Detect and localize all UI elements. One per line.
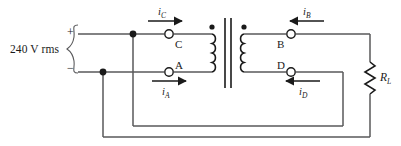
junction-node-top	[130, 31, 137, 38]
terminal-b-marker	[287, 30, 295, 38]
primary-polarity-dot	[209, 24, 214, 29]
terminal-a-label: A	[175, 60, 183, 71]
source-minus-sign: −	[67, 62, 74, 74]
wire-outer-return	[103, 72, 370, 137]
circuit-schematic	[0, 0, 401, 146]
load-resistor-symbol: R	[380, 71, 387, 83]
current-label-ic: iC	[158, 7, 166, 20]
current-label-ib: iB	[303, 7, 311, 20]
wire-d-branch	[133, 34, 343, 126]
transformer-primary-winding	[200, 24, 215, 72]
current-ic-subscript: C	[161, 11, 166, 20]
load-resistor-subscript: L	[387, 77, 391, 86]
wire-b-branch	[296, 34, 370, 62]
terminal-c-marker	[165, 30, 173, 38]
terminal-d-label: D	[277, 60, 285, 71]
terminal-d-marker	[287, 68, 295, 76]
circuit-diagram-page: 240 V rms + − C A B D iC iA iB iD RL	[0, 0, 401, 146]
source-voltage-label: 240 V rms	[10, 44, 59, 56]
source-leads	[78, 34, 133, 72]
transformer-core	[225, 18, 231, 88]
current-label-id: iD	[299, 87, 307, 100]
source-plus-sign: +	[67, 26, 74, 38]
terminal-c-label: C	[175, 39, 182, 50]
load-resistor-label: RL	[380, 72, 391, 86]
terminal-a-marker	[165, 68, 173, 76]
terminal-b-label: B	[277, 39, 284, 50]
load-resistor	[365, 62, 375, 137]
secondary-polarity-dot	[241, 24, 246, 29]
current-ib-subscript: B	[306, 11, 311, 20]
current-ia-subscript: A	[165, 91, 170, 100]
current-label-ia: iA	[162, 87, 170, 100]
junction-node-bottom	[100, 69, 107, 76]
current-id-subscript: D	[302, 91, 307, 100]
